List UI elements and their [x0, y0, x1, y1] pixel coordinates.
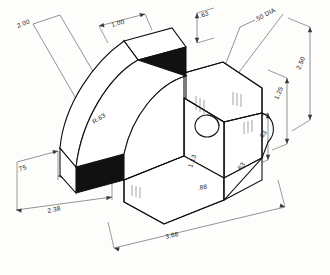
dim-line-2p00: [33, 24, 82, 109]
arrowhead-1p25-b: [285, 139, 289, 144]
isometric-drawing-svg: 2.00 1.00 .63 .50 DIA 2.50 1.25 R.63 .75…: [0, 0, 330, 275]
arrowhead-top-63-b: [195, 38, 199, 43]
ext-3p88-b: [278, 180, 285, 207]
arrowhead-1p00-a: [99, 23, 105, 27]
ext-1p00-a: [99, 26, 108, 43]
arrowhead-1p00-b: [139, 13, 145, 17]
ext-1p25-a: [268, 70, 287, 78]
ext-3p88-a: [108, 222, 114, 248]
dim-text-left-75: .75: [16, 163, 28, 173]
dim-line-left-75: [17, 151, 58, 162]
dim-text-2p50: 2.50: [295, 55, 307, 70]
ext-top-63-b: [197, 38, 214, 43]
ext-1p25-b: [272, 144, 287, 150]
dim-tick-2p00: [33, 15, 60, 24]
dim-text-2p00: 2.00: [16, 17, 31, 29]
arrowhead-2p38-b: [107, 196, 113, 200]
arrowhead-2p50-b: [308, 115, 312, 120]
arrowhead-1p25-a: [285, 78, 289, 83]
dim-line-3p88: [114, 207, 285, 248]
ext-2p50-a: [288, 18, 310, 27]
dim-text-0p88: .88: [197, 183, 208, 191]
arrowhead-left-75: [52, 150, 58, 154]
dim-text-hole-dia: .50 DIA: [253, 6, 277, 23]
technical-drawing-canvas: 2.00 1.00 .63 .50 DIA 2.50 1.25 R.63 .75…: [0, 0, 330, 275]
dim-line-2p38: [16, 197, 112, 210]
dim-text-1p00: 1.00: [110, 18, 125, 28]
dim-text-2p38: 2.38: [47, 204, 62, 214]
dim-text-top-63: .63: [198, 9, 209, 19]
part-geometry: [60, 28, 273, 224]
dim-text-1p25: 1.25: [273, 85, 285, 100]
arrowhead-right-63-b: [266, 155, 270, 160]
arrowhead-2p50-a: [308, 27, 312, 32]
ext-1p00-b: [145, 14, 152, 30]
dim-text-3p88: 3.88: [165, 230, 180, 240]
ext-2p50-b: [292, 120, 310, 131]
